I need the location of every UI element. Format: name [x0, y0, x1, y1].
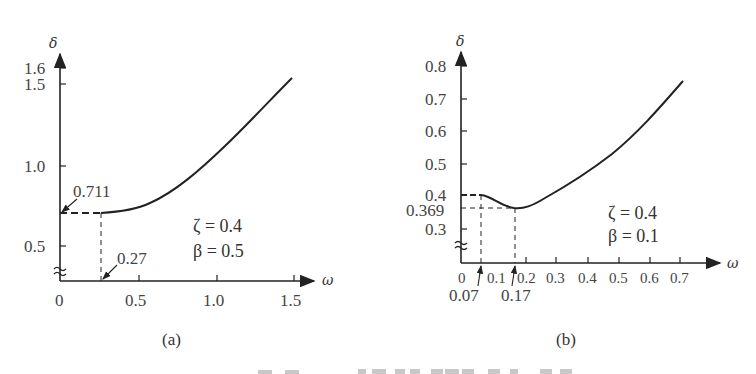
panel-b: δ ω 0.8 0.7 0.6 0.5 0.4 0.369 0.3 0 0.1 … — [406, 33, 739, 349]
y-tick-label: 1.0 — [24, 157, 45, 176]
y-tick-label: 1.5 — [24, 75, 45, 94]
arrow-icon — [512, 266, 515, 286]
y-axis-symbol: δ — [49, 35, 57, 51]
y-ticks-b — [461, 66, 467, 229]
clipped-caption — [258, 369, 572, 374]
panel-label-b: (b) — [556, 330, 576, 349]
y-tick-label: 0.3 — [425, 220, 446, 239]
x-tick-label: 0.1 — [487, 270, 506, 286]
annotation-0711: 0.711 — [73, 182, 111, 201]
annotation-027: 0.27 — [117, 249, 147, 268]
x-tick-label: 1.0 — [203, 291, 224, 310]
annotation-007: 0.07 — [449, 286, 479, 305]
x-axis-symbol: ω — [322, 272, 334, 288]
x-tick-label: 0 — [55, 291, 64, 310]
x-ticks-b — [526, 257, 680, 263]
x-ticks-a — [139, 275, 294, 281]
y-tick-label: 0.6 — [425, 122, 446, 141]
y-tick-label: 0.5 — [24, 237, 45, 256]
panel-a: δ ω 1.6 1.5 1.0 0.5 0 0.5 1.0 1.5 0.711 — [24, 35, 334, 349]
figure: δ ω 1.6 1.5 1.0 0.5 0 0.5 1.0 1.5 0.711 — [0, 0, 756, 374]
x-tick-label: 1.5 — [280, 291, 301, 310]
arrow-icon — [478, 266, 481, 286]
y-tick-label: 0.7 — [425, 90, 447, 109]
y-axis-symbol: δ — [456, 33, 464, 49]
x-tick-label: 0.4 — [578, 270, 597, 286]
x-tick-label: 0.2 — [517, 270, 536, 286]
y-tick-label: 0.5 — [425, 155, 446, 174]
param-zeta: ζ = 0.4 — [193, 216, 242, 236]
x-tick-label: 0.7 — [670, 270, 689, 286]
y-tick-label: 0.8 — [425, 57, 446, 76]
delta-curve-a — [101, 78, 292, 213]
x-tick-label: 0.5 — [125, 291, 146, 310]
x-tick-label: 0.3 — [546, 270, 565, 286]
param-zeta: ζ = 0.4 — [608, 203, 657, 223]
annotation-017: 0.17 — [501, 286, 531, 305]
param-beta: β = 0.1 — [608, 226, 659, 246]
y-ticks-a — [60, 68, 66, 246]
x-tick-label: 0.5 — [609, 270, 628, 286]
param-beta: β = 0.5 — [193, 241, 244, 261]
arrow-icon — [103, 265, 117, 279]
y-tick-label: 0.369 — [406, 201, 444, 220]
x-axis-symbol: ω — [727, 255, 739, 271]
x-tick-label: 0 — [458, 270, 466, 286]
panel-label-a: (a) — [162, 330, 181, 349]
arrow-icon — [62, 199, 77, 212]
x-tick-label: 0.6 — [640, 270, 659, 286]
delta-curve-b — [481, 81, 683, 208]
